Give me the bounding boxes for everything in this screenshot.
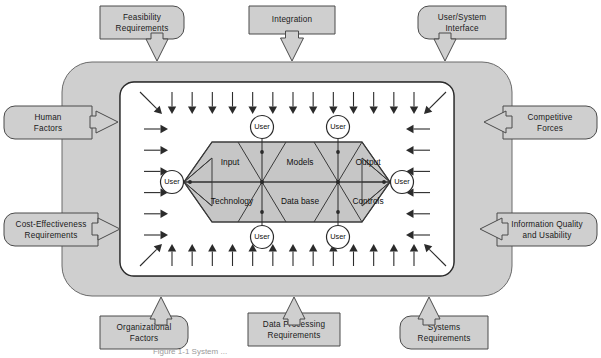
- label-box-shape: [4, 106, 92, 139]
- user-label: User: [330, 122, 346, 131]
- external-input-organizational-factors[interactable]: OrganizationalFactors: [100, 316, 188, 349]
- label-line-1: Information Quality: [511, 220, 583, 229]
- core-cell-input: Input: [221, 157, 240, 167]
- external-input-information-quality-and-usability[interactable]: Information Qualityand Usability: [497, 213, 597, 246]
- label-line-2: Requirements: [268, 331, 321, 340]
- label-box-shape: [497, 213, 597, 246]
- label-line-2: Forces: [537, 124, 563, 133]
- core-cell-output: Output: [355, 157, 381, 167]
- label-box-shape: [100, 316, 188, 349]
- user-label: User: [254, 122, 270, 131]
- external-input-user-system-interface[interactable]: User/SystemInterface: [418, 6, 506, 39]
- core-octagon: Input Models Output Technology Data base…: [184, 142, 390, 222]
- connector-dot: [382, 180, 386, 184]
- label-line-1: Competitive: [528, 113, 573, 122]
- label-line-1: Feasibility: [123, 13, 162, 22]
- figure-caption: Figure 1-1 System ...: [153, 347, 227, 356]
- label-line-1: Human: [34, 113, 61, 122]
- user-label: User: [394, 177, 410, 186]
- label-box-shape: [4, 213, 98, 246]
- core-cell-controls: Controls: [352, 196, 383, 206]
- user-label: User: [254, 232, 270, 241]
- block-arrow-top-center: [281, 31, 304, 61]
- label-line-2: and Usability: [523, 231, 573, 240]
- connector-dot: [260, 180, 264, 184]
- core-cell-data-base: Data base: [281, 196, 320, 206]
- core-cell-technology: Technology: [211, 196, 254, 206]
- core-cell-models: Models: [287, 157, 314, 167]
- connector-dot: [260, 210, 264, 214]
- label-line-1: User/System: [438, 13, 487, 22]
- connector-dot: [188, 180, 192, 184]
- external-input-cost-effectiveness-requirements[interactable]: Cost-EffectivenessRequirements: [4, 213, 98, 246]
- label-box-shape: [503, 106, 597, 139]
- label-line-1: Integration: [272, 15, 313, 24]
- figure-stage: Input Models Output Technology Data base…: [0, 0, 601, 358]
- user-label: User: [330, 232, 346, 241]
- label-box-shape: [400, 316, 488, 349]
- system-design-context-diagram: Input Models Output Technology Data base…: [0, 0, 601, 358]
- connector-dot: [336, 150, 340, 154]
- external-input-competitive-forces[interactable]: CompetitiveForces: [503, 106, 597, 139]
- label-line-2: Requirements: [116, 24, 169, 33]
- external-input-human-factors[interactable]: HumanFactors: [4, 106, 92, 139]
- label-box-shape: [418, 6, 506, 39]
- label-line-2: Factors: [34, 124, 62, 133]
- external-input-systems-requirements[interactable]: SystemsRequirements: [400, 316, 488, 349]
- connector-dot: [336, 210, 340, 214]
- external-input-feasibility-requirements[interactable]: FeasibilityRequirements: [100, 6, 184, 39]
- label-line-2: Interface: [445, 24, 479, 33]
- label-line-1: Cost-Effectiveness: [16, 220, 87, 229]
- label-box-shape: [100, 6, 184, 39]
- label-line-2: Requirements: [418, 334, 471, 343]
- connector-dot: [336, 180, 340, 184]
- external-input-integration[interactable]: Integration: [249, 6, 335, 34]
- connector-dot: [260, 150, 264, 154]
- label-line-2: Factors: [130, 334, 158, 343]
- label-line-2: Requirements: [25, 231, 78, 240]
- user-label: User: [164, 177, 180, 186]
